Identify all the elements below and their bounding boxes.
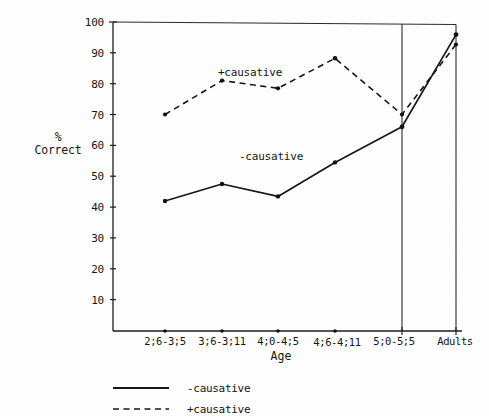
data-point — [333, 160, 337, 164]
data-point — [163, 112, 167, 116]
annotation-plus-causative: +causative — [218, 66, 282, 79]
y-tick-label-30: 30 — [91, 232, 104, 245]
y-tick-30: 30 — [91, 232, 116, 245]
line-chart: 100 90 80 70 60 50 — [0, 0, 489, 419]
chart-figure: 100 90 80 70 60 50 — [0, 0, 489, 419]
plot-frame — [113, 22, 462, 331]
legend-label-minus-causative: -causative — [187, 382, 250, 395]
x-tick-label-2: 4;0-4;5 — [257, 335, 299, 347]
y-tick-50: 50 — [91, 170, 116, 183]
y-axis-title: % Correct — [34, 130, 81, 157]
data-point — [220, 182, 224, 186]
series-minus-causative — [163, 32, 459, 203]
x-tick-5: Adults — [437, 327, 473, 347]
data-point — [400, 112, 404, 116]
y-tick-40: 40 — [91, 201, 116, 214]
data-point — [400, 124, 405, 129]
x-tick-4: 5;0-5;5 — [373, 327, 415, 347]
y-axis-title-line2: Correct — [34, 143, 81, 157]
legend-entry-minus-causative: -causative — [113, 382, 250, 395]
x-tick-label-0: 2;6-3;5 — [144, 335, 186, 347]
y-tick-20: 20 — [91, 263, 116, 276]
y-tick-80: 80 — [91, 78, 116, 91]
y-tick-90: 90 — [91, 47, 116, 60]
plot-top-border — [113, 22, 456, 25]
series-line-plus-causative — [165, 45, 456, 115]
y-tick-label-50: 50 — [91, 170, 104, 183]
data-point — [454, 32, 459, 37]
y-tick-label-70: 70 — [91, 109, 104, 122]
y-tick-100: 100 — [85, 16, 117, 29]
annotation-minus-causative: -causative — [239, 150, 303, 163]
data-point — [163, 199, 167, 203]
data-point — [276, 86, 280, 90]
y-tick-label-80: 80 — [91, 78, 104, 91]
y-tick-70: 70 — [91, 109, 116, 122]
x-tick-label-1: 3;6-3;11 — [198, 335, 245, 347]
chart-legend: -causative +causative — [113, 382, 250, 416]
y-tick-label-40: 40 — [91, 201, 104, 214]
data-point — [333, 56, 338, 61]
x-tick-label-3: 4;6-4;11 — [313, 336, 360, 348]
data-point — [276, 194, 280, 198]
data-point — [220, 79, 224, 83]
series-line-minus-causative — [165, 35, 456, 201]
y-tick-label-10: 10 — [91, 294, 104, 307]
x-axis-ticks: 2;6-3;5 3;6-3;11 4;0-4;5 4;6-4;11 5;0-5;… — [144, 327, 473, 363]
y-tick-label-20: 20 — [91, 263, 104, 276]
legend-entry-plus-causative: +causative — [113, 403, 250, 416]
chart-annotations: +causative -causative — [218, 66, 303, 163]
y-tick-label-90: 90 — [91, 47, 104, 60]
x-tick-1: 3;6-3;11 — [198, 329, 245, 347]
data-point — [454, 42, 458, 46]
y-tick-label-100: 100 — [85, 16, 104, 29]
x-tick-label-5: Adults — [437, 335, 473, 347]
y-axis-title-line1: % — [55, 130, 62, 144]
y-tick-label-60: 60 — [91, 139, 104, 152]
x-axis-title: Age — [271, 349, 292, 363]
x-tick-2: 4;0-4;5 — [257, 329, 299, 347]
y-tick-10: 10 — [91, 294, 116, 307]
y-axis-ticks: 100 90 80 70 60 50 — [85, 16, 117, 307]
y-tick-60: 60 — [91, 139, 116, 152]
x-tick-label-4: 5;0-5;5 — [373, 335, 415, 347]
legend-label-plus-causative: +causative — [187, 403, 250, 416]
x-tick-3: 4;6-4;11 — [313, 329, 360, 348]
x-tick-0: 2;6-3;5 — [144, 329, 186, 347]
